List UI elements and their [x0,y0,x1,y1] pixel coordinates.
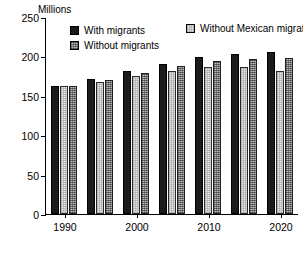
x-axis-tick-label: 2010 [197,221,220,233]
bar [123,71,131,214]
y-axis-tick-label: 150 [21,92,39,103]
y-axis-tick-label: 100 [21,131,39,142]
bar [213,61,221,214]
bar-group-2015 [231,18,257,214]
legend-swatch-without-migrants [70,41,79,50]
legend-swatch-with-migrants [70,26,79,35]
x-axis-tick [281,214,282,218]
bar [60,86,68,214]
bar [141,73,149,214]
bar [69,86,77,214]
bar [249,59,257,214]
legend-item-without-mexican-migration: Without Mexican migration [186,23,303,36]
legend-label-with-migrants: With migrants [84,25,145,38]
x-axis-tick [65,214,66,218]
x-axis-tick [137,214,138,218]
bar-group-2005 [159,18,185,214]
bar [105,80,113,214]
bar [96,82,104,214]
legend-label-without-mexican-migration: Without Mexican migration [200,23,303,36]
bar-chart: Millions 050100150200250 199020002010202… [0,0,303,259]
y-axis-tick [41,215,46,216]
legend-item-with-migrants: With migrants [70,25,145,38]
bar [168,71,176,214]
legend-swatch-without-mexican-migration [186,24,195,33]
x-axis-tick-label: 2020 [269,221,292,233]
bar [231,54,239,214]
bar [132,76,140,214]
legend-label-without-migrants: Without migrants [84,40,159,53]
x-axis-tick-label: 1990 [53,221,76,233]
bar [195,57,203,214]
y-axis-unit-label: Millions [38,4,71,15]
x-axis-tick-label: 2000 [125,221,148,233]
y-axis-tick-label: 250 [21,13,39,24]
bar [87,79,95,214]
bar-group-2010 [195,18,221,214]
bar [51,86,59,214]
bar [159,64,167,215]
bar [177,66,185,214]
bar [276,71,284,214]
bar-group-2020 [267,18,293,214]
bar [204,67,212,214]
y-axis-tick-label: 0 [33,210,39,221]
bar [285,58,293,214]
x-axis-tick [209,214,210,218]
y-axis-tick-label: 200 [21,52,39,63]
bar [240,67,248,214]
y-axis-tick-label: 50 [27,170,39,181]
bar [267,52,275,214]
legend-item-without-migrants: Without migrants [70,40,159,53]
